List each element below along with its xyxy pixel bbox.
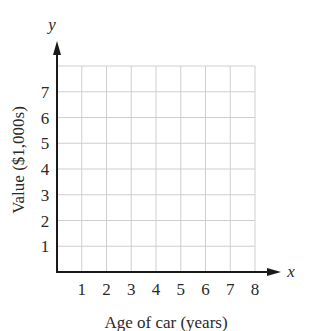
x-tick-label: 6 bbox=[201, 280, 210, 299]
x-tick-label: 1 bbox=[78, 280, 87, 299]
y-tick-label: 2 bbox=[41, 212, 50, 231]
x-axis-arrow-icon bbox=[267, 268, 281, 276]
grid bbox=[57, 66, 255, 272]
y-tick-label: 5 bbox=[41, 134, 50, 153]
y-axis-arrow-icon bbox=[53, 41, 61, 55]
y-tick-label: 3 bbox=[41, 186, 50, 205]
y-axis-variable: y bbox=[46, 15, 56, 34]
axes bbox=[53, 41, 281, 276]
x-tick-label: 5 bbox=[177, 280, 186, 299]
y-tick-label: 6 bbox=[41, 109, 50, 128]
x-tick-label: 7 bbox=[226, 280, 235, 299]
x-tick-label: 8 bbox=[251, 280, 260, 299]
x-tick-label: 3 bbox=[127, 280, 136, 299]
chart: y x 12345678 1234567 Age of car (years) … bbox=[0, 0, 316, 331]
y-tick-labels: 1234567 bbox=[41, 83, 50, 257]
y-tick-label: 1 bbox=[41, 237, 50, 256]
x-tick-labels: 12345678 bbox=[78, 280, 260, 299]
x-axis-variable: x bbox=[286, 262, 295, 281]
y-axis-label: Value ($1,000s) bbox=[9, 106, 28, 214]
y-tick-label: 4 bbox=[41, 160, 50, 179]
x-axis-label: Age of car (years) bbox=[104, 313, 227, 331]
x-tick-label: 4 bbox=[152, 280, 161, 299]
y-tick-label: 7 bbox=[41, 83, 50, 102]
x-tick-label: 2 bbox=[102, 280, 111, 299]
